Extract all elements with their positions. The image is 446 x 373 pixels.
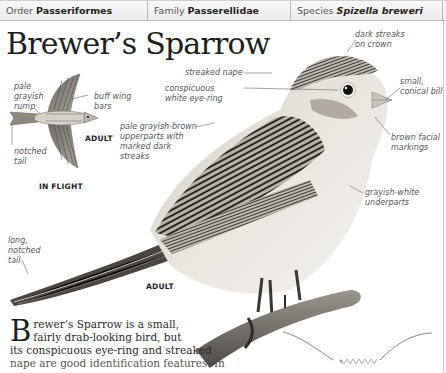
intro-line-3: its conspicuous eye-ring and streaked <box>10 344 212 356</box>
label-long-notched-tail: long, notched tail <box>8 236 41 266</box>
label-dark-streaks-crown: dark streaks on crown <box>355 30 405 50</box>
intro-line-2: fairly drab-looking bird, but <box>33 331 181 343</box>
drop-cap: B <box>10 319 31 343</box>
label-notched-tail: notched tail <box>14 147 47 167</box>
flight-adult-tag: ADULT <box>85 134 113 143</box>
label-streaked-nape: streaked nape <box>185 68 243 78</box>
label-conical-bill: small, conical bill <box>400 77 442 97</box>
intro-paragraph: B rewer’s Sparrow is a small, fairly dra… <box>10 318 230 370</box>
label-upperparts: pale grayish-brown upperparts with marke… <box>120 122 197 162</box>
main-adult-tag: ADULT <box>146 282 174 291</box>
flight-path-curve <box>283 332 432 360</box>
label-grayish-white-underparts: grayish-white underparts <box>365 188 419 208</box>
intro-line-4: nape are good identification features. I… <box>10 357 225 369</box>
intro-line-1: rewer’s Sparrow is a small, <box>33 318 179 330</box>
flight-path-undulation <box>340 359 377 364</box>
label-pale-grayish-rump: pale grayish rump <box>14 82 43 112</box>
label-brown-facial-markings: brown facial markings <box>391 133 440 153</box>
label-white-eye-ring: conspicuous white eye-ring <box>165 84 223 104</box>
in-flight-caption: IN FLIGHT <box>39 182 83 191</box>
label-buff-wing-bars: buff wing bars <box>94 92 131 112</box>
